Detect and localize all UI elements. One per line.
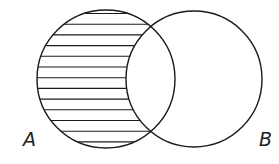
venn-diagram: [0, 0, 279, 164]
hatching-a-minus-b: [0, 14, 279, 164]
set-a-label: A: [23, 130, 36, 149]
set-a-circle: [37, 10, 175, 148]
set-b-circle: [126, 11, 262, 147]
set-b-label: B: [259, 130, 272, 149]
